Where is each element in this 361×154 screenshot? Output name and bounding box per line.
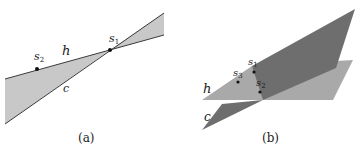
- point-s3: [236, 80, 239, 83]
- point-s2: [258, 90, 261, 93]
- figure: s1 s2 h c (a) s1 s2 s3 h c (b): [0, 0, 361, 154]
- line-h: [5, 35, 164, 79]
- label-s1: s1: [109, 32, 119, 46]
- plane-c-lower: [202, 100, 263, 130]
- label-s2: s2: [34, 50, 44, 64]
- panel-b: s1 s2 s3 h c (b): [202, 9, 355, 145]
- label-h: h: [203, 81, 211, 96]
- point-s1: [252, 70, 255, 73]
- caption-a: (a): [78, 131, 95, 145]
- label-c: c: [63, 82, 69, 95]
- point-s1: [108, 48, 112, 52]
- caption-b: (b): [262, 131, 279, 145]
- point-s2: [35, 67, 39, 71]
- panel-a: s1 s2 h c (a): [5, 13, 164, 145]
- label-c: c: [204, 110, 211, 124]
- label-h: h: [62, 43, 70, 58]
- label-s1: s1: [248, 56, 258, 69]
- line-c: [5, 13, 164, 124]
